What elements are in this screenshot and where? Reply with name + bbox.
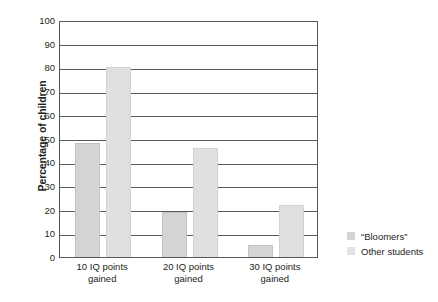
legend-item: “Bloomers”	[347, 229, 435, 243]
legend-swatch-icon	[347, 247, 355, 255]
plot-area	[59, 21, 318, 258]
legend-label: “Bloomers”	[361, 231, 407, 242]
y-tick-label: 30	[31, 182, 55, 192]
x-tick-label-line2: gained	[144, 273, 234, 285]
x-tick-label: 30 IQ pointsgained	[230, 261, 320, 285]
bar	[106, 67, 131, 257]
x-tick-label-line2: gained	[230, 273, 320, 285]
y-tick-label: 40	[31, 158, 55, 168]
bar	[248, 245, 273, 257]
bar-chart-figure: Percentage of children 10090807060504030…	[0, 0, 438, 302]
y-tick-label: 80	[31, 63, 55, 73]
y-tick-label: 70	[31, 87, 55, 97]
y-axis-tick-labels: 1009080706050403020100	[30, 0, 55, 302]
legend-swatch-icon	[347, 232, 355, 240]
x-tick-label-line2: gained	[57, 273, 147, 285]
x-tick-label: 10 IQ pointsgained	[57, 261, 147, 285]
y-tick-label: 60	[31, 111, 55, 121]
x-axis-tick-labels: 10 IQ pointsgained20 IQ pointsgained30 I…	[59, 261, 318, 301]
y-tick-label: 10	[31, 229, 55, 239]
bar	[162, 212, 187, 257]
x-tick-label-line1: 10 IQ points	[77, 261, 128, 272]
bar	[75, 143, 100, 257]
y-tick-label: 90	[31, 40, 55, 50]
y-tick-label: 0	[31, 253, 55, 263]
x-tick-label-line1: 30 IQ points	[249, 261, 300, 272]
bar	[279, 205, 304, 257]
bar-series-container	[60, 22, 317, 257]
chart-legend: “Bloomers”Other students	[347, 229, 435, 259]
bar	[193, 148, 218, 257]
y-tick-label: 50	[31, 135, 55, 145]
y-tick-label: 100	[31, 16, 55, 26]
x-tick-label: 20 IQ pointsgained	[144, 261, 234, 285]
x-tick-label-line1: 20 IQ points	[163, 261, 214, 272]
legend-item: Other students	[347, 244, 435, 258]
y-tick-label: 20	[31, 206, 55, 216]
legend-label: Other students	[361, 246, 423, 257]
